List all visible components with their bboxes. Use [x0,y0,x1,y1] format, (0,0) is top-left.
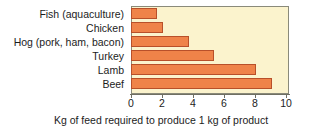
category-axis-labels: Fish (aquaculture) Chicken Hog (pork, ha… [0,7,127,93]
x-tick-label-0: 0 [119,97,143,110]
category-label-beef: Beef [102,77,124,91]
bar-fish [131,8,157,19]
x-tick-label-6: 6 [212,97,236,110]
x-tick-label-4: 4 [181,97,205,110]
x-tick-label-2: 2 [150,97,174,110]
category-label-chicken: Chicken [86,21,124,35]
x-axis-line [130,94,290,95]
bar-chicken [131,22,163,33]
category-label-fish: Fish (aquaculture) [39,7,124,21]
x-tick-label-10: 10 [274,97,298,110]
plot-area [131,6,289,94]
bar-beef [131,78,272,89]
category-label-turkey: Turkey [92,49,124,63]
category-label-hog: Hog (pork, ham, bacon) [14,35,124,49]
bar-hog [131,36,189,47]
bar-lamb [131,64,256,75]
x-axis-title: Kg of feed required to produce 1 kg of p… [0,113,322,127]
bar-turkey [131,50,214,61]
category-label-lamb: Lamb [98,63,124,77]
x-tick-label-8: 8 [243,97,267,110]
bar-chart: Fish (aquaculture) Chicken Hog (pork, ha… [0,0,322,134]
